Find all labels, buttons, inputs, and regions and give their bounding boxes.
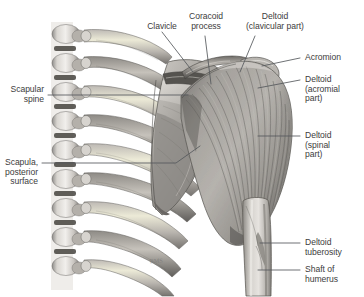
anatomy-figure: Clavicle Coracoid process Deltoid (clavi… — [0, 0, 364, 297]
label-deltoid-acromial-part: Deltoid (acromial part) — [305, 75, 363, 104]
label-coracoid-process: Coracoid process — [178, 12, 234, 31]
artist-signature: RMS — [150, 258, 163, 265]
label-deltoid-tuberosity: Deltoid tuberosity — [305, 238, 363, 257]
label-scapular-spine: Scapular spine — [0, 85, 44, 104]
humerus-shaft — [243, 197, 272, 296]
label-shaft-of-humerus: Shaft of humerus — [305, 265, 363, 284]
label-scapula-posterior-surface: Scapula, posterior surface — [0, 158, 38, 187]
label-acromion: Acromion — [305, 53, 363, 63]
label-deltoid-clavicular-part: Deltoid (clavicular part) — [232, 12, 318, 31]
deltoid-muscle — [181, 61, 296, 246]
label-deltoid-spinal-part: Deltoid (spinal part) — [305, 131, 363, 160]
